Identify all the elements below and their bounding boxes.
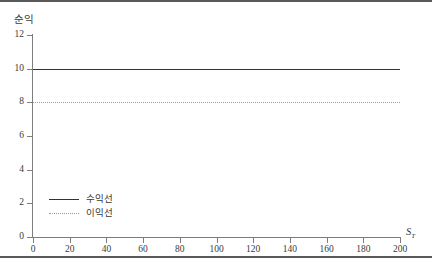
- x-tick-label: 0: [18, 245, 48, 255]
- x-tick-label: 180: [348, 245, 378, 255]
- x-tick: [106, 238, 107, 243]
- x-tick-label: 40: [91, 245, 121, 255]
- x-tick-label: 80: [165, 245, 195, 255]
- x-tick-label: 60: [128, 245, 158, 255]
- y-tick-label: 8: [4, 97, 24, 107]
- chart-legend: 수익선이익선: [49, 192, 113, 220]
- x-tick: [327, 238, 328, 243]
- y-axis-title: 순익: [14, 14, 34, 25]
- x-tick: [217, 238, 218, 243]
- y-tick-label: 2: [4, 198, 24, 208]
- x-tick: [400, 238, 401, 243]
- x-tick: [70, 238, 71, 243]
- legend-label: 이익선: [86, 208, 113, 218]
- figure-bottom-rule: [0, 256, 432, 258]
- legend-item: 수익선: [49, 192, 113, 206]
- x-tick-label: 20: [55, 245, 85, 255]
- x-tick-label: 160: [312, 245, 342, 255]
- x-tick-label: 200: [385, 245, 415, 255]
- x-tick: [253, 238, 254, 243]
- x-tick: [290, 238, 291, 243]
- x-tick-label: 120: [238, 245, 268, 255]
- x-tick: [143, 238, 144, 243]
- legend-swatch-solid: [49, 199, 79, 200]
- x-tick: [33, 238, 34, 243]
- y-tick-label: 0: [4, 232, 24, 242]
- x-tick: [363, 238, 364, 243]
- x-axis-title: ST: [406, 227, 415, 240]
- chart-figure: 순익 ST 024681012 020406080100120140160180…: [0, 0, 432, 269]
- figure-top-rule: [0, 0, 432, 2]
- y-tick-label: 4: [4, 165, 24, 175]
- legend-item: 이익선: [49, 206, 113, 220]
- x-axis-title-subscript: T: [411, 232, 415, 240]
- legend-label: 수익선: [86, 194, 113, 204]
- x-tick-label: 140: [275, 245, 305, 255]
- series-line: [33, 69, 400, 70]
- series-line: [33, 102, 400, 103]
- y-tick-label: 6: [4, 131, 24, 141]
- y-tick-label: 12: [4, 30, 24, 40]
- x-tick: [180, 238, 181, 243]
- y-tick-label: 10: [4, 64, 24, 74]
- x-tick-label: 100: [202, 245, 232, 255]
- legend-swatch-dotted: [49, 213, 79, 214]
